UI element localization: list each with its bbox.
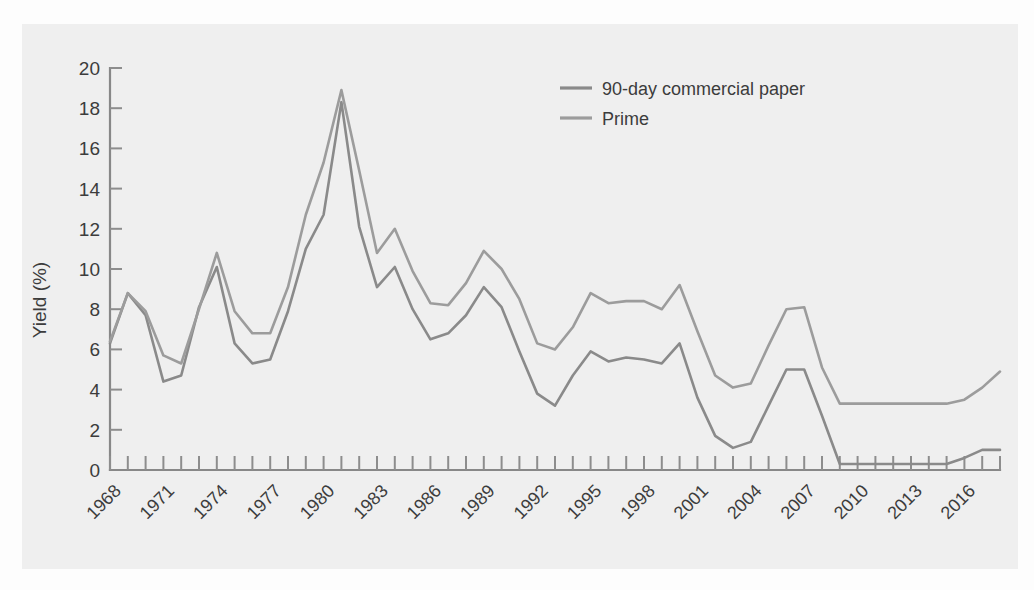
x-tick-label: 2007 <box>777 481 819 523</box>
y-axis-title: Yield (%) <box>29 262 50 338</box>
x-tick-label: 2010 <box>830 481 872 523</box>
y-tick-label: 12 <box>79 219 100 240</box>
y-tick-label: 0 <box>89 460 100 481</box>
series-lines <box>110 90 1000 464</box>
x-tick-label: 1974 <box>189 481 231 523</box>
y-tick-label: 20 <box>79 58 100 79</box>
y-tick-label: 2 <box>89 420 100 441</box>
y-tick-label: 6 <box>89 339 100 360</box>
x-tick-label: 1989 <box>456 481 498 523</box>
y-tick-label: 10 <box>79 259 100 280</box>
x-tick-labels: 1968197119741977198019831986198919921995… <box>82 481 979 523</box>
y-tick-label: 16 <box>79 138 100 159</box>
legend-label-1[interactable]: 90-day commercial paper <box>602 79 805 99</box>
y-tick-label: 8 <box>89 299 100 320</box>
series-line-2 <box>110 90 1000 404</box>
y-tick-label: 14 <box>79 179 101 200</box>
x-tick-label: 2004 <box>723 481 765 523</box>
x-tick-label: 1977 <box>243 481 285 523</box>
y-tick-label: 4 <box>89 380 100 401</box>
x-tick-label: 1971 <box>136 481 178 523</box>
x-tick-label: 1995 <box>563 481 605 523</box>
x-tick-label: 2013 <box>883 481 925 523</box>
y-tick-label: 18 <box>79 98 100 119</box>
x-tick-label: 2001 <box>670 481 712 523</box>
x-tick-label: 1998 <box>616 481 658 523</box>
x-tick-label: 1992 <box>510 481 552 523</box>
series-line-1 <box>110 102 1000 464</box>
y-axis-group: 02468101214161820 Yield (%) <box>29 58 122 481</box>
x-tick-label: 2016 <box>937 481 979 523</box>
x-tick-label: 1986 <box>403 481 445 523</box>
chart-page: 02468101214161820 Yield (%) 196819711974… <box>0 0 1034 590</box>
x-tick-label: 1968 <box>82 481 124 523</box>
chart-legend[interactable]: 90-day commercial paperPrime <box>560 79 805 129</box>
y-tick-labels: 02468101214161820 <box>79 58 101 481</box>
yield-line-chart: 02468101214161820 Yield (%) 196819711974… <box>0 0 1034 590</box>
x-tick-label: 1983 <box>349 481 391 523</box>
legend-label-2[interactable]: Prime <box>602 109 649 129</box>
x-axis-group: 1968197119741977198019831986198919921995… <box>82 456 1000 523</box>
x-tick-label: 1980 <box>296 481 338 523</box>
y-tick-marks <box>110 68 122 470</box>
